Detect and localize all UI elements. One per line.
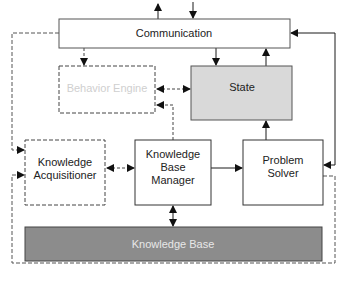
knowledge-base-label: Knowledge Base — [132, 238, 215, 250]
edge-communication-ka — [12, 33, 59, 150]
node-knowledge-base: Knowledge Base — [25, 227, 322, 261]
kbm-label-line3: Manager — [151, 174, 195, 186]
node-knowledge-acquisitioner: Knowledge Acquisitioner — [25, 140, 105, 205]
communication-label: Communication — [136, 27, 212, 39]
node-state: State — [191, 66, 292, 120]
kbm-label-line1: Knowledge — [146, 148, 200, 160]
ka-label-line1: Knowledge — [38, 156, 92, 168]
node-communication: Communication — [59, 19, 290, 48]
node-problem-solver: Problem Solver — [243, 140, 323, 205]
state-label: State — [229, 81, 255, 93]
behavior-engine-label: Behavior Engine — [67, 82, 148, 94]
kbm-label-line2: Base — [160, 161, 185, 173]
ps-label-line1: Problem — [263, 154, 304, 166]
ka-label-line2: Acquisitioner — [34, 169, 97, 181]
ps-label-line2: Solver — [267, 167, 299, 179]
node-behavior-engine: Behavior Engine — [59, 66, 155, 113]
node-knowledge-base-manager: Knowledge Base Manager — [135, 140, 211, 205]
architecture-diagram: Communication Behavior Engine State Know… — [0, 0, 344, 284]
edge-kbm-behavior — [157, 105, 173, 140]
